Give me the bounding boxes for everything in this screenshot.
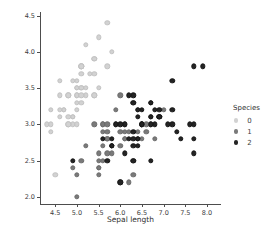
data-point-species-0 <box>57 114 62 119</box>
data-point-species-1 <box>92 122 97 127</box>
data-point-species-1 <box>118 93 123 98</box>
legend-item-label: 1 <box>247 128 251 136</box>
data-point-species-0 <box>96 35 101 40</box>
data-point-species-0 <box>79 100 84 105</box>
data-point-species-1 <box>105 129 110 134</box>
data-point-species-1 <box>109 151 114 156</box>
data-point-species-2 <box>191 64 196 69</box>
data-point-species-1 <box>152 136 157 141</box>
data-point-species-2 <box>109 136 114 141</box>
y-tick-label: 3.5 <box>25 84 35 92</box>
data-point-species-2 <box>131 100 136 105</box>
data-point-species-2 <box>170 78 175 83</box>
data-point-species-2 <box>152 122 157 127</box>
data-point-species-1 <box>79 158 84 163</box>
x-axis-label: Sepal length <box>40 215 221 224</box>
data-point-species-1 <box>118 143 123 148</box>
data-point-species-2 <box>70 158 75 163</box>
data-point-species-2 <box>139 107 144 112</box>
data-point-species-2 <box>105 158 110 163</box>
y-tick-label: 4.0 <box>25 48 35 56</box>
data-point-species-2 <box>131 158 136 163</box>
data-point-species-0 <box>83 93 88 98</box>
data-point-species-2 <box>170 107 175 112</box>
data-point-species-0 <box>92 93 97 98</box>
data-point-species-1 <box>126 180 131 185</box>
plot-area: 2.02.53.03.54.04.5 4.55.05.56.06.57.07.5… <box>40 12 220 204</box>
data-points-layer <box>40 12 220 204</box>
data-point-species-0 <box>105 64 110 69</box>
data-point-species-0 <box>61 107 66 112</box>
legend-swatch-icon <box>234 129 238 133</box>
legend: Species 012 <box>229 104 275 148</box>
data-point-species-1 <box>139 136 144 141</box>
data-point-species-0 <box>48 122 53 127</box>
data-point-species-2 <box>148 100 153 105</box>
data-point-species-0 <box>74 107 79 112</box>
data-point-species-2 <box>157 114 162 119</box>
data-point-species-2 <box>118 180 123 185</box>
data-point-species-1 <box>74 172 79 177</box>
data-point-species-1 <box>96 151 101 156</box>
data-point-species-2 <box>174 129 179 134</box>
data-point-species-0 <box>105 20 110 25</box>
data-point-species-1 <box>74 194 79 199</box>
data-point-species-1 <box>96 165 101 170</box>
data-point-species-2 <box>200 64 205 69</box>
data-point-species-1 <box>135 129 140 134</box>
data-point-species-0 <box>65 93 70 98</box>
data-point-species-1 <box>144 129 149 134</box>
legend-title: Species <box>233 104 275 112</box>
y-tick-label: 2.0 <box>25 193 35 201</box>
data-point-species-2 <box>191 122 196 127</box>
data-point-species-1 <box>70 165 75 170</box>
data-point-species-0 <box>109 49 114 54</box>
data-point-species-0 <box>92 71 97 76</box>
data-point-species-1 <box>96 172 101 177</box>
x-tick-mark <box>185 204 186 207</box>
x-tick-mark <box>142 204 143 207</box>
x-axis-spine <box>40 204 221 205</box>
scatter-plot-figure: 2.02.53.03.54.04.5 4.55.05.56.06.57.07.5… <box>0 0 275 242</box>
y-tick-label: 2.5 <box>25 157 35 165</box>
data-point-species-2 <box>178 136 183 141</box>
legend-swatch-icon <box>234 118 238 122</box>
data-point-species-2 <box>148 158 153 163</box>
data-point-species-0 <box>83 85 88 90</box>
data-point-species-2 <box>122 151 127 156</box>
data-point-species-0 <box>92 56 97 61</box>
data-point-species-1 <box>105 122 110 127</box>
x-tick-mark <box>55 204 56 207</box>
x-tick-mark <box>120 204 121 207</box>
y-tick-label: 3.0 <box>25 120 35 128</box>
data-point-species-0 <box>57 93 62 98</box>
legend-item-label: 2 <box>247 139 251 147</box>
data-point-species-1 <box>83 143 88 148</box>
x-tick-mark <box>164 204 165 207</box>
data-point-species-0 <box>74 78 79 83</box>
data-point-species-2 <box>170 122 175 127</box>
data-point-species-0 <box>96 85 101 90</box>
data-point-species-0 <box>52 172 57 177</box>
data-point-species-1 <box>131 172 136 177</box>
data-point-species-0 <box>57 78 62 83</box>
data-point-species-2 <box>135 143 140 148</box>
data-point-species-1 <box>100 143 105 148</box>
data-point-species-2 <box>122 122 127 127</box>
data-point-species-2 <box>135 114 140 119</box>
x-tick-mark <box>99 204 100 207</box>
x-tick-mark <box>207 204 208 207</box>
legend-item-2[interactable]: 2 <box>229 137 275 148</box>
data-point-species-2 <box>148 114 153 119</box>
y-tick-label: 4.5 <box>25 12 35 20</box>
data-point-species-0 <box>48 129 53 134</box>
data-point-species-2 <box>191 151 196 156</box>
legend-item-1[interactable]: 1 <box>229 126 275 137</box>
legend-item-0[interactable]: 0 <box>229 115 275 126</box>
data-point-species-1 <box>161 107 166 112</box>
legend-item-label: 0 <box>247 117 251 125</box>
data-point-species-2 <box>191 136 196 141</box>
data-point-species-1 <box>113 107 118 112</box>
data-point-species-2 <box>131 93 136 98</box>
data-point-species-0 <box>79 64 84 69</box>
